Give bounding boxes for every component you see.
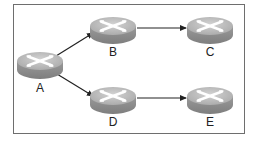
- edge-a-to-d: [57, 74, 93, 96]
- network-diagram: A B C D E: [0, 0, 255, 143]
- router-icon: [90, 87, 136, 114]
- node-b-label: B: [109, 45, 117, 59]
- node-a-label: A: [36, 81, 44, 95]
- edge-a-to-b: [56, 33, 93, 56]
- router-icon: [187, 87, 233, 114]
- node-a: [17, 52, 63, 79]
- node-e: [187, 87, 233, 114]
- node-b: [90, 17, 136, 44]
- router-icon: [187, 17, 233, 44]
- node-c: [187, 17, 233, 44]
- node-e-label: E: [206, 115, 214, 129]
- node-d: [90, 87, 136, 114]
- node-c-label: C: [206, 45, 215, 59]
- node-d-label: D: [109, 115, 118, 129]
- router-icon: [90, 17, 136, 44]
- router-icon: [17, 52, 63, 79]
